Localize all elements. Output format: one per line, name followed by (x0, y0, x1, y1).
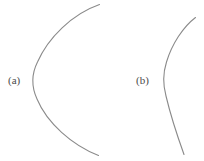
figure-background (0, 0, 204, 161)
panel-label-a: (a) (8, 74, 20, 86)
figure-container: (a) (b) (0, 0, 204, 161)
arc-figure-svg (0, 0, 204, 161)
panel-label-b: (b) (136, 74, 149, 86)
